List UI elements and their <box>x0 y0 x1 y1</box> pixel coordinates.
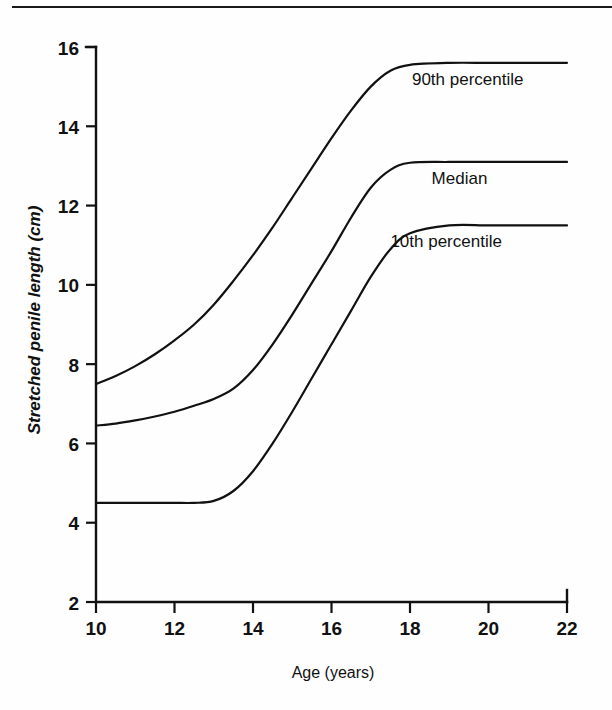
y-tick-label-2: 2 <box>68 593 79 614</box>
y-tick-label-12: 12 <box>58 196 79 217</box>
curve-90th-percentile <box>96 63 567 384</box>
x-tick-label-20: 20 <box>478 618 499 639</box>
x-tick-label-22: 22 <box>556 618 577 639</box>
y-tick-label-6: 6 <box>68 434 79 455</box>
x-axis-tick-labels: 10121416182022 <box>85 618 577 639</box>
series-label-90th-percentile: 90th percentile <box>412 70 524 89</box>
curve-median <box>96 162 567 426</box>
tick-marks-group <box>86 47 567 613</box>
figure-container: 246810121416 10121416182022 90th percent… <box>0 0 612 710</box>
y-tick-label-14: 14 <box>58 117 80 138</box>
curve-10th-percentile <box>96 225 567 503</box>
y-tick-label-8: 8 <box>68 355 79 376</box>
x-tick-label-14: 14 <box>242 618 264 639</box>
x-tick-label-18: 18 <box>399 618 420 639</box>
x-tick-label-10: 10 <box>85 618 106 639</box>
x-tick-label-12: 12 <box>164 618 185 639</box>
data-curves-group <box>96 63 567 503</box>
axes-group <box>86 47 567 602</box>
series-label-10th-percentile: 10th percentile <box>390 232 502 251</box>
chart-plot: 246810121416 10121416182022 90th percent… <box>0 0 612 710</box>
y-tick-label-4: 4 <box>68 513 79 534</box>
y-axis-title: Stretched penile length (cm) <box>25 205 44 434</box>
y-axis-tick-labels: 246810121416 <box>58 38 80 614</box>
x-tick-label-16: 16 <box>321 618 342 639</box>
series-label-median: Median <box>432 169 488 188</box>
y-tick-label-10: 10 <box>58 275 79 296</box>
x-axis-title: Age (years) <box>292 664 375 681</box>
y-tick-label-16: 16 <box>58 38 79 59</box>
axis-spines <box>96 47 567 602</box>
